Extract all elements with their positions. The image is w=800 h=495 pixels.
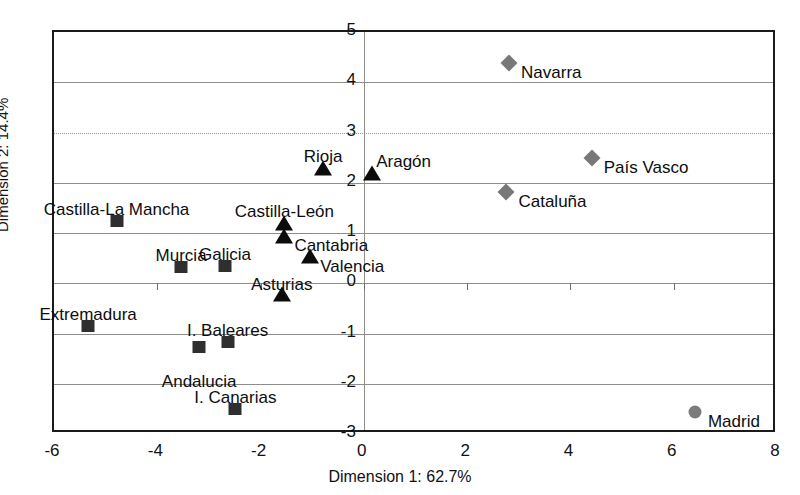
y-tick-label: -2 bbox=[328, 372, 356, 392]
data-point-label: Rioja bbox=[304, 148, 343, 165]
x-tick-label: 8 bbox=[770, 441, 779, 461]
data-point-label: Aragón bbox=[376, 153, 431, 170]
y-axis-title: Dimension 2: 14.4% bbox=[0, 98, 11, 232]
scatter-plot-figure: Dimension 2: 14.4% Dimension 1: 62.7% -3… bbox=[0, 0, 800, 495]
x-tick-label: -6 bbox=[44, 441, 59, 461]
x-tick-mark bbox=[570, 283, 571, 290]
gridline-horizontal bbox=[54, 233, 773, 234]
x-tick-mark bbox=[467, 283, 468, 290]
data-point-label: Asturias bbox=[251, 276, 312, 293]
y-tick-label: 3 bbox=[328, 121, 356, 141]
plot-area bbox=[52, 30, 775, 432]
x-tick-label: 0 bbox=[357, 441, 366, 461]
data-point-square bbox=[193, 341, 206, 353]
data-point-label: Andalucia bbox=[162, 373, 237, 390]
x-tick-mark bbox=[157, 283, 158, 290]
x-tick-label: -2 bbox=[251, 441, 266, 461]
data-point-label: I. Canarias bbox=[194, 389, 276, 406]
data-point-label: I. Baleares bbox=[187, 322, 268, 339]
data-point-label: Cataluña bbox=[518, 193, 586, 210]
gridline-vertical-zero bbox=[364, 32, 365, 430]
gridline-horizontal bbox=[54, 283, 773, 284]
data-point-triangle bbox=[275, 229, 293, 244]
x-axis-title: Dimension 1: 62.7% bbox=[0, 468, 800, 486]
data-point-label: Valencia bbox=[320, 258, 384, 275]
y-tick-label: -3 bbox=[328, 422, 356, 442]
data-point-label: Castilla-León bbox=[235, 203, 334, 220]
x-tick-label: 2 bbox=[460, 441, 469, 461]
gridline-horizontal bbox=[54, 183, 773, 184]
y-tick-label: 5 bbox=[328, 20, 356, 40]
gridline-horizontal bbox=[54, 133, 773, 134]
data-point-label: Galicia bbox=[199, 246, 251, 263]
data-point-label: Madrid bbox=[708, 413, 760, 430]
gridline-horizontal bbox=[54, 334, 773, 335]
y-tick-label: -1 bbox=[328, 322, 356, 342]
y-tick-label: 4 bbox=[328, 70, 356, 90]
x-tick-label: -4 bbox=[148, 441, 163, 461]
data-point-label: Extremadura bbox=[39, 306, 136, 323]
x-tick-mark bbox=[364, 283, 365, 290]
data-point-circle bbox=[688, 405, 701, 418]
x-tick-label: 6 bbox=[667, 441, 676, 461]
data-point-label: Castilla-La Mancha bbox=[44, 201, 190, 218]
x-tick-mark bbox=[674, 283, 675, 290]
data-point-triangle bbox=[301, 249, 319, 264]
data-point-label: Navarra bbox=[521, 64, 581, 81]
gridline-horizontal bbox=[54, 82, 773, 83]
data-point-label: País Vasco bbox=[604, 159, 689, 176]
x-tick-label: 4 bbox=[564, 441, 573, 461]
